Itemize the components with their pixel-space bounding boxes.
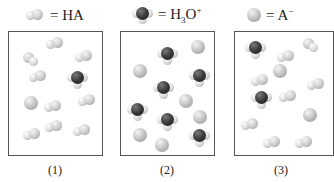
legend-hydronium: = H3O+: [132, 4, 201, 26]
panel-2-box: [120, 31, 215, 156]
legend-hydronium-text: = H3O+: [158, 5, 201, 25]
panel-3-box: [234, 31, 334, 156]
panel-3-label: (3): [261, 163, 301, 178]
legend-anion-text: = A−: [266, 6, 293, 24]
legend-anion: = A−: [246, 4, 293, 26]
legend-ha: = HA: [26, 4, 84, 26]
anion-molecule-icon: [246, 7, 262, 23]
panel-1-box: [8, 31, 103, 156]
ha-molecule-icon: [26, 8, 46, 22]
panel-2-label: (2): [147, 163, 187, 178]
hydronium-molecule-icon: [132, 6, 154, 24]
panel-1-label: (1): [35, 163, 75, 178]
legend-ha-text: = HA: [50, 7, 84, 24]
